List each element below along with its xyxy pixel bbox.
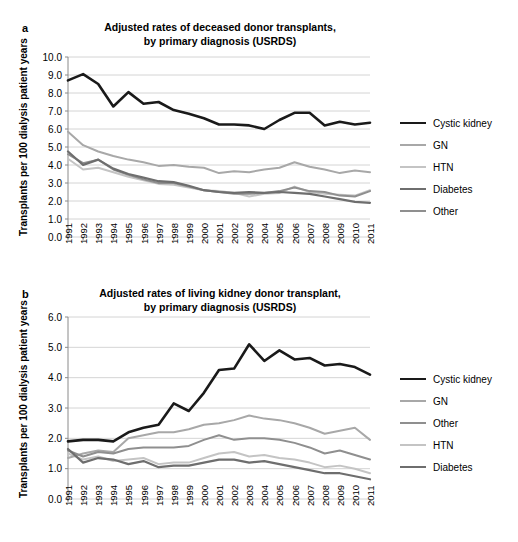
x-tick-label: 2002 [229, 485, 240, 506]
legend-swatch-icon [400, 166, 426, 168]
panel-b: b Adjusted rates of living kidney donor … [0, 280, 518, 542]
legend-swatch-icon [400, 378, 426, 380]
x-tick-label: 1992 [78, 223, 89, 244]
x-tick-label: 2002 [229, 223, 240, 244]
legend-label: Diabetes [433, 184, 472, 195]
legend-swatch-icon [400, 444, 426, 446]
x-tick-label: 2009 [335, 485, 346, 506]
y-tick-label: 6.0 [48, 124, 62, 135]
legend-item-gn[interactable]: GN [400, 134, 492, 156]
legend-swatch-icon [400, 188, 426, 190]
series-line-gn [68, 132, 370, 173]
x-tick-label: 2009 [335, 223, 346, 244]
legend-label: HTN [433, 162, 454, 173]
x-tick-label: 2011 [365, 486, 376, 506]
x-tick-label: 2007 [305, 223, 316, 244]
series-line-diabetes [68, 152, 370, 203]
x-tick-label: 1996 [139, 485, 150, 506]
series-line-cystic-kidney [68, 74, 370, 129]
y-tick-label: 5.0 [48, 342, 62, 353]
x-tick-label: 1998 [169, 223, 180, 244]
series-line-htn [68, 452, 370, 473]
y-tick-label: 4.0 [48, 372, 62, 383]
y-tick-label: 0.0 [48, 494, 62, 505]
x-tick-label: 2003 [244, 485, 255, 506]
y-tick-label: 9.0 [48, 70, 62, 81]
legend-label: Other [433, 418, 458, 429]
x-tick-label: 2007 [305, 485, 316, 506]
x-tick-label: 1991 [63, 223, 74, 244]
x-tick-label: 1995 [123, 485, 134, 506]
y-tick-label: 5.0 [48, 142, 62, 153]
x-tick-label: 1997 [154, 223, 165, 244]
y-tick-label: 1.0 [48, 463, 62, 474]
legend-label: Cystic kidney [433, 118, 492, 129]
legend-item-cystic-kidney[interactable]: Cystic kidney [400, 112, 492, 134]
panel-a-legend: Cystic kidneyGNHTNDiabetesOther [400, 112, 492, 222]
legend-item-diabetes[interactable]: Diabetes [400, 456, 492, 478]
x-tick-label: 2004 [259, 485, 270, 506]
x-tick-label: 2000 [199, 223, 210, 244]
y-tick-label: 7.0 [48, 106, 62, 117]
x-tick-label: 2001 [214, 223, 225, 244]
legend-item-cystic-kidney[interactable]: Cystic kidney [400, 368, 492, 390]
x-tick-label: 2005 [274, 223, 285, 244]
legend-label: GN [433, 140, 448, 151]
x-tick-label: 2004 [259, 223, 270, 244]
x-tick-label: 2005 [274, 485, 285, 506]
x-tick-label: 2011 [365, 224, 376, 244]
legend-item-htn[interactable]: HTN [400, 434, 492, 456]
panel-b-legend: Cystic kidneyGNOtherHTNDiabetes [400, 368, 492, 478]
legend-swatch-icon [400, 466, 426, 468]
x-tick-label: 1994 [108, 485, 119, 506]
series-line-cystic-kidney [68, 344, 370, 441]
legend-item-other[interactable]: Other [400, 412, 492, 434]
legend-label: Cystic kidney [433, 374, 492, 385]
x-tick-label: 2010 [350, 223, 361, 244]
legend-item-diabetes[interactable]: Diabetes [400, 178, 492, 200]
x-tick-label: 2003 [244, 223, 255, 244]
legend-label: Diabetes [433, 462, 472, 473]
y-tick-label: 8.0 [48, 88, 62, 99]
x-tick-label: 2010 [350, 485, 361, 506]
x-tick-label: 1997 [154, 485, 165, 506]
legend-item-htn[interactable]: HTN [400, 156, 492, 178]
legend-swatch-icon [400, 210, 426, 212]
x-tick-label: 1995 [123, 223, 134, 244]
y-tick-label: 3.0 [48, 178, 62, 189]
x-tick-label: 1993 [93, 223, 104, 244]
legend-swatch-icon [400, 144, 426, 146]
series-line-htn [68, 159, 370, 197]
legend-label: Other [433, 206, 458, 217]
x-tick-label: 1992 [78, 485, 89, 506]
legend-swatch-icon [400, 400, 426, 402]
series-line-other [68, 435, 370, 459]
legend-item-gn[interactable]: GN [400, 390, 492, 412]
y-tick-label: 0.0 [48, 232, 62, 243]
x-tick-label: 1993 [93, 485, 104, 506]
x-tick-label: 2006 [290, 223, 301, 244]
y-tick-label: 3.0 [48, 403, 62, 414]
x-tick-label: 2000 [199, 485, 210, 506]
x-tick-label: 2008 [320, 223, 331, 244]
y-tick-label: 10.0 [43, 52, 63, 63]
x-tick-label: 1991 [63, 485, 74, 506]
x-tick-label: 1994 [108, 223, 119, 244]
legend-item-other[interactable]: Other [400, 200, 492, 222]
legend-label: HTN [433, 440, 454, 451]
y-tick-label: 1.0 [48, 214, 62, 225]
series-line-gn [68, 416, 370, 458]
legend-label: GN [433, 396, 448, 407]
x-tick-label: 1996 [139, 223, 150, 244]
x-tick-label: 1998 [169, 485, 180, 506]
x-tick-label: 2008 [320, 485, 331, 506]
x-tick-label: 2006 [290, 485, 301, 506]
legend-swatch-icon [400, 422, 426, 424]
legend-swatch-icon [400, 122, 426, 124]
y-tick-label: 2.0 [48, 433, 62, 444]
y-tick-label: 2.0 [48, 196, 62, 207]
x-tick-label: 2001 [214, 485, 225, 506]
panel-a: a Adjusted rates of deceased donor trans… [0, 0, 518, 280]
y-tick-label: 6.0 [48, 312, 62, 323]
x-tick-label: 1999 [184, 485, 195, 506]
